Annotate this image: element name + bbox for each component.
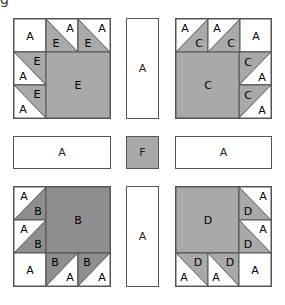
label-hst-gray: E — [53, 37, 60, 50]
label-hst-gray: E — [34, 55, 41, 68]
label-hst-white: A — [98, 271, 106, 284]
sashing-right-horizontal: A — [175, 136, 272, 169]
label-hst-gray: D — [244, 205, 252, 218]
label-hst-gray: D — [194, 256, 202, 269]
label-large-square: C — [204, 79, 212, 92]
sashing-label: A — [58, 146, 66, 159]
label-hst-white: A — [181, 22, 189, 35]
label-corner: A — [26, 30, 34, 43]
label-hst-gray: C — [195, 37, 203, 50]
label-hst-gray: C — [244, 56, 252, 69]
sashing-left-horizontal: A — [13, 136, 111, 169]
block-top-left: A A E A E E A E A E — [13, 18, 111, 119]
label-large-square: D — [204, 214, 212, 227]
label-hst-white: A — [180, 271, 188, 284]
label-hst-gray: D — [244, 238, 252, 251]
block-bottom-left: A B A B B A B A B A — [13, 186, 111, 287]
sashing-label: A — [139, 62, 147, 75]
label-hst-gray: C — [244, 89, 252, 102]
label-corner: A — [26, 264, 34, 277]
label-hst-gray: B — [34, 205, 42, 218]
sashing-top-vertical: A — [126, 18, 159, 119]
sashing-bottom-vertical: A — [126, 186, 159, 287]
center-square-label: F — [139, 146, 145, 159]
label-hst-white: A — [20, 223, 28, 236]
block-bottom-right: D A D A D D A D A A — [175, 186, 272, 287]
center-square: F — [126, 136, 159, 169]
label-hst-gray: D — [226, 256, 234, 269]
label-hst-white: A — [258, 71, 266, 84]
label-hst-white: A — [258, 104, 266, 117]
label-hst-white: A — [19, 70, 27, 83]
label-corner: A — [251, 264, 259, 277]
sashing-label: A — [139, 230, 147, 243]
label-hst-white: A — [66, 271, 74, 284]
label-hst-white: A — [66, 22, 74, 35]
label-hst-white: A — [259, 223, 267, 236]
label-hst-gray: B — [51, 256, 59, 269]
label-hst-gray: B — [34, 238, 42, 251]
label-large-square: E — [75, 79, 82, 92]
label-hst-gray: B — [83, 256, 91, 269]
label-hst-white: A — [98, 22, 106, 35]
label-hst-white: A — [213, 22, 221, 35]
label-large-square: B — [74, 214, 82, 227]
label-hst-white: A — [20, 190, 28, 203]
label-hst-white: A — [19, 103, 27, 116]
label-hst-white: A — [212, 271, 220, 284]
label-hst-gray: E — [85, 37, 92, 50]
block-top-right: A C A C A C A C A C — [175, 18, 272, 119]
label-hst-white: A — [259, 190, 267, 203]
sashing-label: A — [220, 146, 228, 159]
label-hst-gray: C — [227, 37, 235, 50]
label-hst-gray: E — [34, 88, 41, 101]
label-corner: A — [252, 30, 260, 43]
corner-glyph: g — [0, 0, 9, 7]
